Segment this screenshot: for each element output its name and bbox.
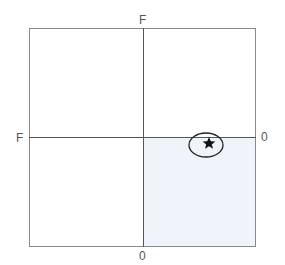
axis-label-top: F bbox=[139, 14, 146, 26]
axis-label-left: F bbox=[16, 132, 23, 144]
quadrant-diagram bbox=[0, 0, 285, 265]
shaded-quadrant bbox=[143, 137, 256, 247]
axis-label-bottom: 0 bbox=[139, 250, 146, 262]
axis-label-right: 0 bbox=[261, 131, 268, 143]
